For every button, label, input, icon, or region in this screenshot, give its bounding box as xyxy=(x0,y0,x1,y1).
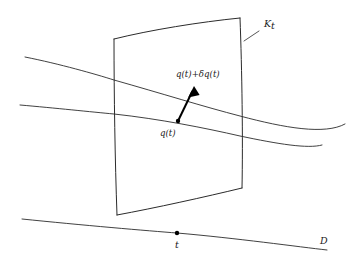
delta-q-arrowhead xyxy=(188,86,199,97)
patch-bottom-edge xyxy=(117,188,242,215)
patch-right-edge xyxy=(240,18,242,188)
q-of-t-point-marker xyxy=(176,119,180,123)
label-parameter-t: t xyxy=(175,239,179,250)
label-surface-K-t: Kt xyxy=(263,18,275,31)
K-t-leader-line xyxy=(244,31,259,41)
variation-diagram: Kt q(t)+δq(t) q(t) t D xyxy=(0,0,356,264)
t-point-marker-on-D xyxy=(175,231,179,235)
patch-left-edge xyxy=(114,39,117,215)
upper-trajectory-curve xyxy=(25,57,345,129)
label-base-point: q(t) xyxy=(160,128,176,138)
figure-root: Kt q(t)+δq(t) q(t) t D xyxy=(0,0,356,264)
label-varied-point: q(t)+δq(t) xyxy=(176,69,220,79)
label-K-subscript: t xyxy=(271,20,275,31)
patch-top-edge xyxy=(114,18,240,39)
label-domain-D: D xyxy=(319,235,328,246)
lower-trajectory-curve xyxy=(20,105,322,146)
